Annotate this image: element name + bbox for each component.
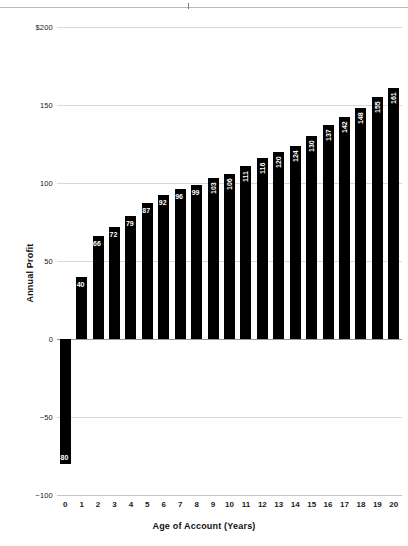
y-axis-tick-label: 100 <box>7 179 53 188</box>
bar-value-label: 148 <box>357 112 364 124</box>
plot-area: -804066727987929699103106111116120124130… <box>57 27 402 495</box>
bar-value-label: 155 <box>374 102 381 114</box>
bar-value-label: 130 <box>308 141 315 153</box>
bar-value-label: 92 <box>159 199 167 206</box>
x-axis-title: Age of Account (Years) <box>0 521 408 531</box>
bar-series: -804066727987929699103106111116120124130… <box>57 27 402 495</box>
bar-value-label: 79 <box>126 220 134 227</box>
bar <box>290 146 301 339</box>
bar-value-label: 72 <box>110 231 118 238</box>
bar <box>240 166 251 339</box>
bar <box>125 216 136 339</box>
bar-value-label: 106 <box>226 178 233 190</box>
bar <box>93 236 104 339</box>
bar <box>273 152 284 339</box>
bar <box>60 339 71 464</box>
y-axis-tick-label: $200 <box>7 23 53 32</box>
y-axis-tick-label: 150 <box>7 101 53 110</box>
bar-value-label: 142 <box>341 122 348 134</box>
bar-value-label: 111 <box>242 171 249 182</box>
bar-value-label: 137 <box>325 130 332 142</box>
bar-value-label: 161 <box>390 92 397 104</box>
bar-value-label: 124 <box>292 150 299 162</box>
bar <box>372 97 383 339</box>
bar-value-label: 87 <box>142 207 150 214</box>
bar <box>339 117 350 339</box>
bar <box>323 125 334 339</box>
bar <box>175 189 186 339</box>
bar <box>109 227 120 339</box>
bar-value-label: 99 <box>192 189 200 196</box>
y-axis-tick-labels: $200150100500−50−100 <box>0 27 53 495</box>
bar <box>355 108 366 339</box>
bar <box>306 136 317 339</box>
bar-value-label: -80 <box>58 454 68 461</box>
top-divider-rule <box>0 7 408 8</box>
bar-chart: Annual Profit $200150100500−50−100 -8040… <box>0 0 408 546</box>
bar-value-label: 66 <box>93 240 101 247</box>
bar-value-label: 120 <box>275 156 282 168</box>
y-axis-tick-label: 50 <box>7 257 53 266</box>
bar <box>388 88 399 339</box>
bar-value-label: 116 <box>259 163 266 174</box>
bar-value-label: 40 <box>77 281 85 288</box>
bar-value-label: 96 <box>175 193 183 200</box>
y-axis-tick-label: 0 <box>7 335 53 344</box>
bar <box>191 185 202 339</box>
x-axis-tick-labels: 01234567891011121314151617181920 <box>57 500 402 514</box>
x-axis-tick-label: 20 <box>384 500 404 509</box>
bar <box>158 195 169 339</box>
x-axis-line <box>57 495 402 496</box>
bar <box>208 178 219 339</box>
bar <box>257 158 268 339</box>
bar <box>142 203 153 339</box>
title-tick-mark <box>188 3 189 9</box>
bar-value-label: 103 <box>210 183 217 195</box>
y-axis-tick-label: −100 <box>7 491 53 500</box>
y-axis-tick-label: −50 <box>7 413 53 422</box>
bar <box>224 174 235 339</box>
